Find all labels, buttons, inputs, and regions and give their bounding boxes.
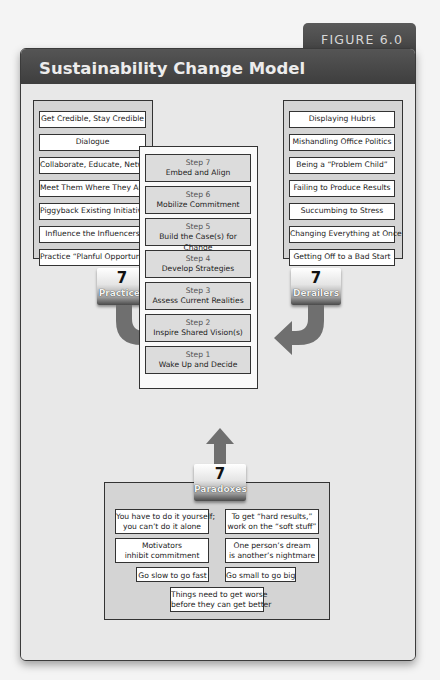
derailer-item: Succumbing to Stress [289, 203, 395, 220]
practice-item: Collaborate, Educate, Network [39, 157, 146, 174]
paradox-item: Go slow to go fast [136, 567, 209, 582]
step-label: Inspire Shared Vision(s) [153, 328, 243, 337]
model-title: Sustainability Change Model [21, 49, 415, 84]
derailer-item: Displaying Hubris [289, 111, 395, 128]
paradox-line: work on the “soft stuff” [228, 522, 317, 531]
paradox-line: Motivators [142, 541, 182, 550]
paradoxes-count: 7 [194, 464, 246, 483]
derailer-item: Getting Off to a Bad Start [289, 249, 395, 266]
step-5: Step 5 Build the Case(s) for Change [145, 218, 251, 246]
step-label: Build the Case(s) for Change [159, 232, 237, 252]
step-7: Step 7 Embed and Align [145, 154, 251, 182]
derailers-arrow-icon [270, 305, 330, 365]
derailers-badge: 7 Derailers [291, 268, 341, 305]
step-number: Step 6 [146, 190, 250, 201]
paradox-line: To get “hard results,” [232, 512, 313, 521]
derailer-item: Failing to Produce Results [289, 180, 395, 197]
step-label: Embed and Align [166, 168, 231, 177]
derailer-item: Changing Everything at Once [289, 226, 395, 243]
paradox-line: you can’t do it alone [123, 522, 201, 531]
practice-item: Dialogue [39, 134, 146, 151]
paradox-line: before they can get better [171, 600, 271, 609]
step-4: Step 4 Develop Strategies [145, 250, 251, 278]
step-label: Develop Strategies [162, 264, 234, 273]
step-label: Wake Up and Decide [159, 360, 238, 369]
step-6: Step 6 Mobilize Commitment [145, 186, 251, 214]
steps-panel: Step 7 Embed and Align Step 6 Mobilize C… [139, 146, 258, 389]
step-number: Step 7 [146, 158, 250, 169]
paradox-item: Go small to go big [225, 567, 296, 582]
step-1: Step 1 Wake Up and Decide [145, 346, 251, 374]
practice-item: Practice “Planful Opportunism” [39, 249, 146, 266]
paradox-item: To get “hard results,” work on the “soft… [225, 509, 319, 534]
paradox-item: One person’s dream is another’s nightmar… [225, 538, 319, 563]
practice-item: Get Credible, Stay Credible [39, 111, 146, 128]
practice-item: Meet Them Where They Are [39, 180, 146, 197]
paradoxes-label: Paradoxes [194, 483, 246, 496]
derailers-label: Derailers [291, 287, 341, 300]
step-number: Step 2 [146, 318, 250, 329]
derailers-count: 7 [291, 268, 341, 287]
paradox-item: Motivators inhibit commitment [115, 538, 209, 563]
derailer-item: Mishandling Office Politics [289, 134, 395, 151]
practice-item: Influence the Influencers [39, 226, 146, 243]
step-number: Step 3 [146, 286, 250, 297]
step-number: Step 1 [146, 350, 250, 361]
paradox-line: is another’s nightmare [229, 551, 315, 560]
step-3: Step 3 Assess Current Realities [145, 282, 251, 310]
derailer-item: Being a “Problem Child” [289, 157, 395, 174]
paradox-item: Things need to get worse before they can… [170, 587, 264, 612]
step-number: Step 5 [146, 222, 250, 233]
paradox-line: You have to do it yourself; [116, 512, 215, 521]
paradox-line: One person’s dream [233, 541, 310, 550]
step-number: Step 4 [146, 254, 250, 265]
practices-panel: Get Credible, Stay Credible Dialogue Col… [33, 100, 153, 259]
step-2: Step 2 Inspire Shared Vision(s) [145, 314, 251, 342]
step-label: Mobilize Commitment [156, 200, 239, 209]
paradox-line: inhibit commitment [125, 551, 200, 560]
paradox-line: Things need to get worse [171, 590, 267, 599]
practice-item: Piggyback Existing Initiatives [39, 203, 146, 220]
derailers-panel: Displaying Hubris Mishandling Office Pol… [283, 100, 403, 259]
paradoxes-arrow-icon [205, 428, 235, 468]
paradoxes-badge: 7 Paradoxes [194, 464, 246, 501]
step-label: Assess Current Realities [152, 296, 243, 305]
paradox-item: You have to do it yourself; you can’t do… [115, 509, 209, 534]
